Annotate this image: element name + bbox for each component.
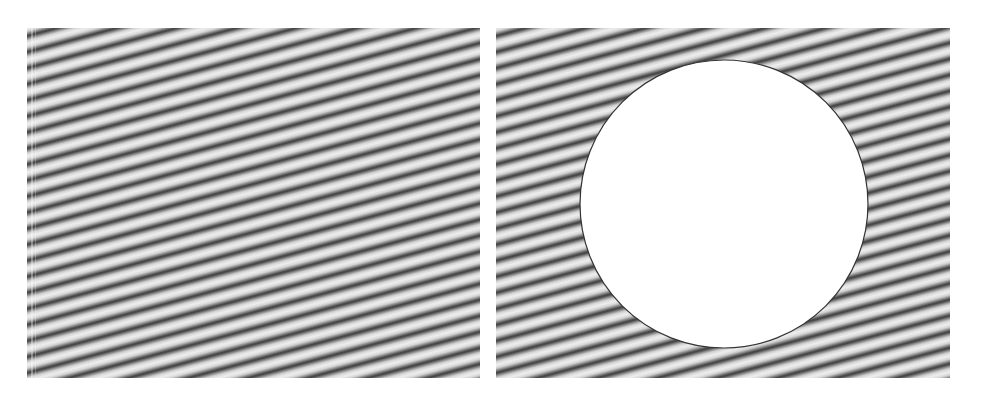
grating-panel-right (496, 28, 950, 378)
grating-image-right (496, 28, 950, 378)
grating-image-left (27, 28, 480, 378)
edge-artifact (31, 28, 33, 378)
edge-artifact (35, 28, 36, 378)
grating-panel-left (27, 28, 480, 378)
grating-pattern (27, 28, 480, 378)
circular-occluder (580, 60, 868, 348)
